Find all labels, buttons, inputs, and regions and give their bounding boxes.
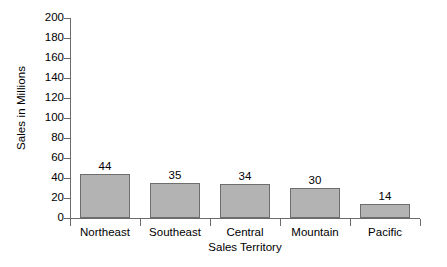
y-axis-title: Sales in Millions (14, 8, 28, 208)
bar-value-label: 14 (350, 190, 420, 202)
bar[interactable] (80, 174, 130, 218)
x-axis-category-label: Pacific (350, 225, 420, 239)
x-axis-category-label: Mountain (280, 225, 350, 239)
bar-group: 30 (280, 18, 350, 218)
y-axis-tick-labels: 020406080100120140160180200 (30, 0, 64, 267)
bar-group: 44 (70, 18, 140, 218)
x-axis-category-labels: NortheastSoutheastCentralMountainPacific (70, 225, 420, 241)
y-axis-tick-label: 60 (30, 152, 64, 163)
bar-value-label: 44 (70, 160, 140, 172)
x-axis-tick-mark (420, 219, 421, 226)
bar-chart: Sales in Millions 0204060801001201401601… (0, 0, 447, 267)
bar-value-label: 35 (140, 169, 210, 181)
y-axis-tick-label: 40 (30, 172, 64, 183)
y-axis-tick-label: 180 (30, 32, 64, 43)
x-axis-category-label: Central (210, 225, 280, 239)
y-axis-tick-label: 80 (30, 132, 64, 143)
x-axis-category-label: Southeast (140, 225, 210, 239)
x-axis-category-label: Northeast (70, 225, 140, 239)
bar[interactable] (150, 183, 200, 218)
y-axis-tick-label: 20 (30, 192, 64, 203)
bar-group: 34 (210, 18, 280, 218)
bar[interactable] (290, 188, 340, 218)
bar[interactable] (220, 184, 270, 218)
x-axis-line (70, 218, 420, 219)
x-axis-title: Sales Territory (70, 240, 420, 254)
y-axis-tick-label: 0 (30, 212, 64, 223)
y-axis-tick-label: 160 (30, 52, 64, 63)
plot-area: 4435343014 (70, 18, 420, 218)
y-axis-tick-label: 140 (30, 72, 64, 83)
bar-value-label: 34 (210, 170, 280, 182)
bar-group: 35 (140, 18, 210, 218)
bar-value-label: 30 (280, 174, 350, 186)
bar[interactable] (360, 204, 410, 218)
y-axis-tick-label: 100 (30, 112, 64, 123)
y-axis-tick-label: 120 (30, 92, 64, 103)
bar-group: 14 (350, 18, 420, 218)
y-axis-tick-label: 200 (30, 12, 64, 23)
